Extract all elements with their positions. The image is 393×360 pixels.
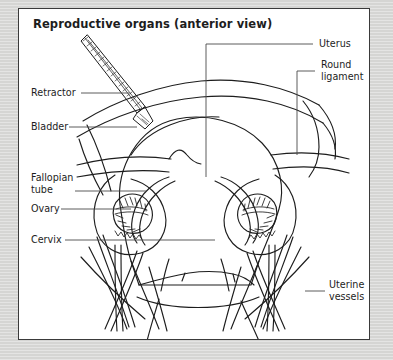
label-retractor: Retractor — [31, 87, 76, 99]
uterine-vessels-right — [223, 235, 309, 331]
cervical-vessel-left — [161, 259, 169, 291]
broad-ligament-left-upper — [77, 157, 171, 165]
bladder-contour-left — [79, 139, 103, 195]
left-fimbrial-fringe — [115, 231, 142, 239]
retractor-instrument — [81, 35, 153, 129]
label-uterine-vessels-line1: Uterine — [329, 279, 364, 291]
uterine-vessels-left — [81, 235, 167, 331]
right-ovary — [238, 194, 277, 233]
right-broad-ligament-pouch — [224, 175, 296, 255]
scanned-page: Reproductive organs (anterior view) — [0, 0, 393, 360]
peritoneal-peak — [169, 150, 201, 164]
label-uterus: Uterus — [319, 38, 351, 50]
label-cervix: Cervix — [31, 234, 62, 246]
cervix-notch-right — [233, 274, 235, 282]
broad-ligament-right-lower — [273, 167, 349, 173]
uterus-body-outline — [120, 117, 282, 285]
vagina-wall-right — [241, 301, 259, 340]
label-round-ligament-line2: ligament — [321, 71, 363, 83]
right-fallopian-tube-inner — [215, 181, 250, 245]
left-broad-ligament-pouch — [94, 175, 166, 255]
label-uterine-vessels-line2: vessels — [329, 291, 364, 303]
label-fallopian-tube-line2: tube — [31, 184, 53, 196]
right-fold-edge — [319, 105, 335, 149]
right-fold-edge-2 — [323, 123, 336, 159]
round-ligament — [303, 101, 319, 177]
label-fallopian-tube-line1: Fallopian — [31, 172, 73, 184]
label-round-ligament-line1: Round — [321, 59, 351, 71]
bladder-peritoneal-fold — [83, 80, 319, 121]
label-bladder: Bladder — [31, 121, 68, 133]
label-ovary: Ovary — [31, 203, 60, 215]
broad-ligament-right-upper — [271, 153, 349, 159]
figure-panel: Reproductive organs (anterior view) — [18, 8, 370, 340]
cervical-vessel-right — [221, 259, 229, 291]
